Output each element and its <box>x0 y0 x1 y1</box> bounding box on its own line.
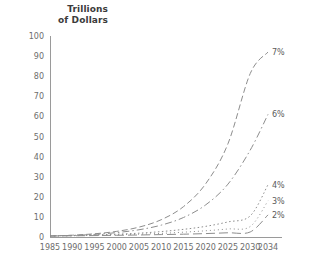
y-tick-label: 10 <box>34 213 44 222</box>
x-tick-label: 1985 <box>40 243 60 252</box>
x-tick-labels: 1985199019952000200520102015202020252030… <box>40 243 278 252</box>
series-lines <box>50 52 268 236</box>
series-label-4pct: 4% <box>272 181 285 190</box>
x-tick-label: 2020 <box>196 243 216 252</box>
y-tick-label: 90 <box>34 52 44 61</box>
x-tick-label: 2000 <box>107 243 127 252</box>
plot-area: 0102030405060708090100 19851990199520002… <box>0 0 310 264</box>
y-tick-label: 40 <box>34 153 44 162</box>
y-tick-label: 80 <box>34 72 44 81</box>
series-line-3pct <box>50 201 268 236</box>
y-tick-labels: 0102030405060708090100 <box>29 32 44 242</box>
series-line-6pct <box>50 114 268 236</box>
series-line-7pct <box>50 52 268 236</box>
x-tick-label: 2034 <box>258 243 278 252</box>
y-tick-label: 50 <box>34 133 44 142</box>
growth-projection-chart: Trillions of Dollars 0102030405060708090… <box>0 0 310 264</box>
y-tick-label: 0 <box>39 233 44 242</box>
y-tick-label: 30 <box>34 173 44 182</box>
series-line-2pct <box>50 215 268 236</box>
y-tick-label: 60 <box>34 112 44 121</box>
x-tick-label: 2025 <box>218 243 238 252</box>
x-tick-label: 2005 <box>129 243 149 252</box>
y-tick-label: 20 <box>34 193 44 202</box>
series-label-6pct: 6% <box>272 110 285 119</box>
x-tick-label: 1995 <box>84 243 104 252</box>
y-tick-label: 100 <box>29 32 44 41</box>
series-end-labels: 7%6%4%3%2% <box>272 48 285 220</box>
series-label-3pct: 3% <box>272 197 285 206</box>
x-tick-label: 2015 <box>173 243 193 252</box>
y-tick-label: 70 <box>34 92 44 101</box>
series-line-4pct <box>50 185 268 236</box>
x-tick-label: 2010 <box>151 243 171 252</box>
series-label-7pct: 7% <box>272 48 285 57</box>
series-label-2pct: 2% <box>272 211 285 220</box>
x-tick-label: 1990 <box>62 243 82 252</box>
